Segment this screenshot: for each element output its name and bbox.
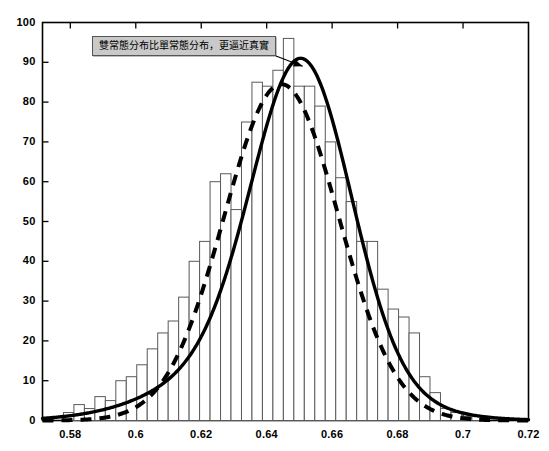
y-tick-label: 80 <box>23 95 36 107</box>
x-tick-label: 0.58 <box>40 428 100 440</box>
histogram-bar <box>147 349 157 421</box>
y-tick-label: 50 <box>23 215 36 227</box>
x-tick-label: 0.68 <box>368 428 428 440</box>
y-tick-label: 60 <box>23 175 36 187</box>
y-tick-label: 20 <box>23 334 36 346</box>
histogram-bar <box>283 38 293 420</box>
x-tick-label: 0.64 <box>237 428 297 440</box>
chart-figure: 雙常態分布比單常態分布，更逼近真實 0102030405060708090100… <box>0 0 549 451</box>
histogram-bar <box>273 70 283 420</box>
histogram-bar <box>357 241 367 420</box>
histogram-bar <box>430 393 440 421</box>
histogram-bar <box>294 86 304 420</box>
y-tick-label: 0 <box>29 414 35 426</box>
histogram-bar <box>221 174 231 421</box>
histogram-bar <box>336 178 346 421</box>
x-tick-label: 0.7 <box>433 428 493 440</box>
x-tick-label: 0.6 <box>106 428 166 440</box>
x-tick-label: 0.62 <box>171 428 231 440</box>
x-tick-label: 0.72 <box>499 428 549 440</box>
y-tick-label: 100 <box>17 16 36 28</box>
y-tick-label: 40 <box>23 254 36 266</box>
y-tick-label: 10 <box>23 374 36 386</box>
histogram-bar <box>252 82 262 420</box>
y-tick-label: 90 <box>23 55 36 67</box>
histogram-bar <box>241 122 251 421</box>
histogram-bar <box>346 202 356 421</box>
x-tick-label: 0.66 <box>302 428 362 440</box>
chart-canvas <box>0 0 549 451</box>
fit-comparison-annotation: 雙常態分布比單常態分布，更逼近真實 <box>92 36 276 56</box>
y-tick-label: 30 <box>23 294 36 306</box>
y-tick-label: 70 <box>23 135 36 147</box>
